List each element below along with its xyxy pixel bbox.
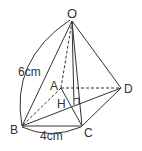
label-H: H [57,97,66,111]
right-angle-mark [74,98,79,104]
label-C: C [84,126,93,140]
label-B: B [10,123,18,137]
label-A: A [50,79,58,93]
label-OB-length: 6cm [18,65,41,79]
pyramid-diagram: O A D B C H 6cm 4cm [0,0,142,151]
label-D: D [124,82,133,96]
edge-OD [72,21,121,88]
edge-OA [61,21,72,88]
label-BC-length: 4cm [40,129,63,143]
label-O: O [67,6,77,21]
edge-CD [82,88,121,126]
edge-AB [22,88,61,126]
